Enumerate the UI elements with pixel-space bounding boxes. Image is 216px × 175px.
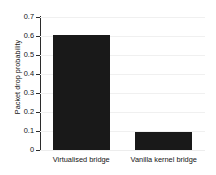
y-axis-tick-mark (36, 150, 40, 151)
y-axis-tick-label: 0 (4, 146, 34, 154)
y-axis-tick-label: 0.2 (4, 108, 34, 116)
plot-area (40, 17, 205, 150)
y-axis-tick-mark (36, 93, 40, 94)
y-axis-tick-label: 0.5 (4, 51, 34, 59)
bar (135, 132, 192, 150)
y-axis-tick-mark (36, 55, 40, 56)
bar (53, 35, 110, 150)
y-axis-tick-label: 0.6 (4, 32, 34, 40)
x-axis-tick-labels: Virtualised bridgeVanilla kernel bridge (40, 155, 205, 169)
gridline (40, 150, 205, 151)
x-axis-category-label: Vanilla kernel bridge (123, 155, 206, 165)
y-axis-tick-mark (36, 36, 40, 37)
y-axis-tick-mark (36, 17, 40, 18)
y-axis-tick-mark (36, 131, 40, 132)
y-axis-tick-label: 0.1 (4, 127, 34, 135)
y-axis-tick-label: 0.7 (4, 13, 34, 21)
gridline (40, 17, 205, 18)
x-axis-category-label: Virtualised bridge (40, 155, 123, 165)
y-axis-tick-mark (36, 112, 40, 113)
y-axis-tick-mark (36, 74, 40, 75)
bar-chart: Packet drop probability 00.10.20.30.40.5… (0, 0, 216, 175)
y-axis-tick-label: 0.3 (4, 89, 34, 97)
y-axis-tick-labels: 00.10.20.30.40.50.60.7 (0, 0, 34, 175)
y-axis-tick-label: 0.4 (4, 70, 34, 78)
